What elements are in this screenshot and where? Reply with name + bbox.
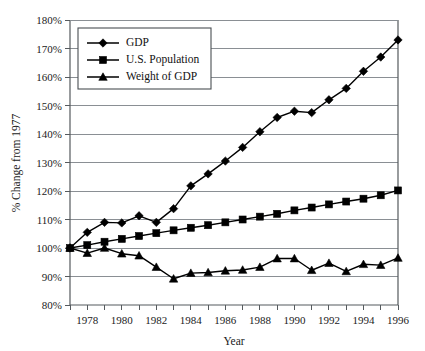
x-tick-label: 1984 — [180, 314, 203, 326]
x-tick-label: 1996 — [387, 314, 410, 326]
data-point — [136, 233, 143, 240]
data-point — [118, 235, 125, 242]
x-axis-title: Year — [223, 335, 244, 347]
legend-label: Weight of GDP — [126, 70, 197, 83]
y-tick-label: 80% — [42, 299, 62, 311]
data-point — [152, 263, 160, 271]
data-point — [239, 216, 246, 223]
data-point — [394, 254, 402, 262]
data-point — [377, 192, 384, 199]
x-tick-label: 1980 — [111, 314, 134, 326]
x-axis-ticks — [70, 305, 398, 310]
data-point — [84, 242, 91, 249]
y-tick-label: 130% — [36, 157, 62, 169]
x-tick-label: 1986 — [214, 314, 237, 326]
y-tick-label: 140% — [36, 128, 62, 140]
data-point — [395, 187, 402, 194]
data-point — [325, 201, 332, 208]
data-point — [153, 230, 160, 237]
data-point — [187, 224, 194, 231]
data-point — [291, 207, 298, 214]
x-tick-label: 1978 — [76, 314, 99, 326]
y-tick-label: 170% — [36, 43, 62, 55]
legend-marker-icon — [100, 57, 107, 64]
chart-legend[interactable]: GDPU.S. PopulationWeight of GDP — [78, 28, 211, 89]
x-tick-label: 1982 — [145, 314, 167, 326]
y-axis-tick-labels: 80%90%100%110%120%130%140%150%160%170%18… — [36, 14, 62, 311]
y-tick-label: 90% — [42, 271, 62, 283]
data-point — [222, 219, 229, 226]
y-tick-label: 180% — [36, 14, 62, 26]
data-point — [342, 267, 350, 275]
y-tick-label: 150% — [36, 100, 62, 112]
x-tick-label: 1990 — [283, 314, 306, 326]
y-tick-label: 160% — [36, 71, 62, 83]
data-point — [343, 198, 350, 205]
data-point — [290, 107, 298, 115]
y-tick-label: 100% — [36, 242, 62, 254]
y-tick-label: 120% — [36, 185, 62, 197]
data-point — [325, 259, 333, 267]
data-point — [205, 222, 212, 229]
x-tick-label: 1994 — [352, 314, 375, 326]
chart-container: 80%90%100%110%120%130%140%150%160%170%18… — [0, 0, 425, 351]
x-axis-tick-labels: 1978198019821984198619881990199219941996 — [76, 314, 409, 326]
legend-label: GDP — [126, 36, 149, 48]
data-point — [308, 204, 315, 211]
y-tick-label: 110% — [37, 214, 62, 226]
x-tick-label: 1992 — [318, 314, 340, 326]
data-point — [170, 227, 177, 234]
data-point — [256, 213, 263, 220]
x-tick-label: 1988 — [249, 314, 272, 326]
y-axis-title: % Change from 1977 — [10, 113, 23, 212]
data-point — [274, 210, 281, 217]
data-point — [360, 195, 367, 202]
y-axis-ticks — [65, 20, 70, 305]
line-chart: 80%90%100%110%120%130%140%150%160%170%18… — [0, 0, 425, 351]
data-point — [307, 266, 315, 274]
legend-label: U.S. Population — [126, 53, 199, 66]
data-point — [135, 212, 143, 220]
data-point — [256, 263, 264, 271]
